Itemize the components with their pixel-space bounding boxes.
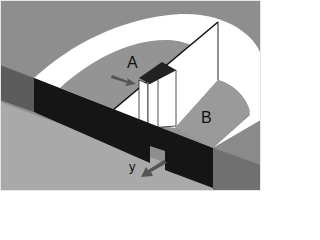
label-b: B [201,110,212,126]
label-a: A [127,55,138,71]
label-y: y [129,160,136,173]
